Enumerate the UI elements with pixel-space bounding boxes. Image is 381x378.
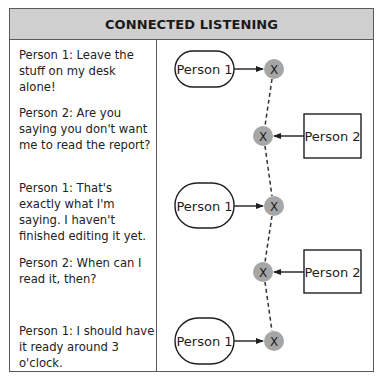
dialogue-column: Person 1: Leave the stuff on my desk alo… (10, 40, 156, 371)
dialogue-line-4: Person 2: When can I read it, then? (19, 255, 155, 287)
dialogue-line-2: Person 2: Are you saying you don't want … (19, 105, 155, 153)
dialogue-line-3: Person 1: That's exactly what I'm saying… (19, 180, 155, 244)
dialogue-line-1: Person 1: Leave the stuff on my desk alo… (19, 47, 155, 95)
column-divider (156, 39, 157, 371)
connected-listening-table: CONNECTED LISTENING Person 1: Leave the … (9, 8, 374, 372)
dialogue-line-5: Person 1: I should have it ready around … (19, 323, 155, 371)
table-title: CONNECTED LISTENING (10, 9, 373, 40)
